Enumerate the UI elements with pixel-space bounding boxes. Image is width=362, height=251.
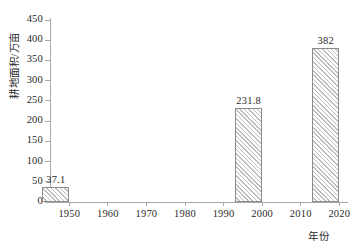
x-tick-mark [262,202,263,206]
y-tick-label: 100 [2,155,43,166]
y-tick-mark [45,20,50,21]
x-axis-title: 年份 [308,228,329,243]
x-tick-label: 1980 [163,208,207,219]
x-tick-mark [223,202,224,206]
x-tick-label: 1950 [47,208,91,219]
x-tick-mark [339,202,340,206]
y-tick-mark [45,121,50,122]
y-tick-mark [45,100,50,101]
x-tick-label: 1960 [86,208,130,219]
y-tick-mark [45,80,50,81]
x-tick-mark [69,202,70,206]
y-tick-label: 300 [2,74,43,85]
cultivated-land-area-bar-chart: 耕地面积/万亩 050100150200250300350400450 1950… [0,0,362,251]
x-tick-label: 2020 [317,208,361,219]
bar-2020 [312,48,339,202]
y-tick-label: 450 [2,13,43,24]
y-tick-label: 200 [2,114,43,125]
x-tick-label: 2010 [279,208,323,219]
y-tick-label: 150 [2,134,43,145]
y-tick-mark [45,141,50,142]
x-tick-label: 2000 [240,208,284,219]
x-tick-mark [185,202,186,206]
bar-value-label-2020: 382 [298,35,353,46]
x-tick-label: 1990 [202,208,246,219]
y-tick-mark [45,161,50,162]
x-tick-label: 1970 [124,208,168,219]
bar-value-label-2000: 231.8 [221,95,276,106]
y-tick-label: 350 [2,53,43,64]
y-tick-mark [45,60,50,61]
bar-2000 [235,108,262,202]
x-axis-line [50,202,348,203]
bar-1950 [42,187,69,202]
y-tick-mark [45,40,50,41]
bar-value-label-1950: 37.1 [28,174,83,185]
y-tick-label: 400 [2,33,43,44]
y-tick-label: 250 [2,94,43,105]
x-tick-mark [300,202,301,206]
x-tick-mark [107,202,108,206]
x-tick-mark [146,202,147,206]
y-tick-label: 0 [2,195,43,206]
